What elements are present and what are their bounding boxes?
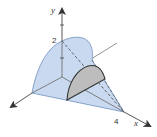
z-axis-front [11, 93, 32, 107]
y-axis-label: y [50, 5, 55, 15]
x-axis-label: x [133, 118, 138, 128]
y-tick-label-2: 2 [52, 36, 57, 45]
solid-diagram: y 2 4 x [0, 0, 157, 137]
x-tick-label-4: 4 [114, 117, 119, 126]
